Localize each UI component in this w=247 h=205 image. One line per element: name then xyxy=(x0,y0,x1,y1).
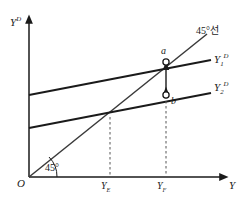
ad1-label-sub: 1 xyxy=(220,60,223,67)
ad2-label-sup: D xyxy=(224,80,229,87)
ad1-label-sup: D xyxy=(224,52,229,59)
point-a-marker xyxy=(163,59,169,65)
forty-five-degree-line-label: 45°선 xyxy=(196,26,219,36)
point-b-label: b xyxy=(171,96,176,106)
y-axis-label-sup: D xyxy=(16,15,21,22)
origin-label: O xyxy=(17,178,25,189)
y-axis-label: YD xyxy=(10,16,21,28)
aggregate-demand-1-line xyxy=(29,60,211,95)
aggregate-demand-1-label: Y1D xyxy=(214,53,228,68)
point-b-marker xyxy=(163,92,169,98)
tick-label-y-f: YF xyxy=(157,181,166,193)
x-axis-label: Y xyxy=(229,180,235,191)
aggregate-demand-2-line xyxy=(29,93,211,128)
tick-y-e-sub: E xyxy=(107,186,111,193)
forty-five-degree-line xyxy=(29,34,207,177)
tick-label-y-e: YE xyxy=(101,181,110,193)
angle-label: 45° xyxy=(45,163,59,173)
ad2-label-sub: 2 xyxy=(220,88,223,95)
tick-y-f-sub: F xyxy=(163,186,167,193)
point-a-label: a xyxy=(161,46,166,56)
aggregate-demand-2-label: Y2D xyxy=(214,81,228,96)
keynesian-cross-figure: YD Y O 45° 45°선 Y1D Y2D a b YE YF xyxy=(0,0,247,205)
